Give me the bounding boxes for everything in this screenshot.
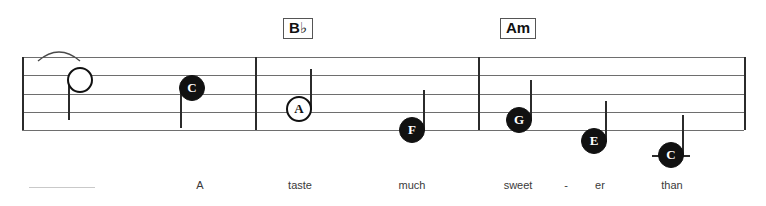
lyric-syllable: A [196,179,203,191]
staff-line-1 [22,57,744,58]
lyric-syllable: sweet [504,179,533,191]
barline-2 [255,57,257,130]
barline-3 [478,57,480,130]
slur-icon [36,46,82,62]
lyric-syllable: taste [288,179,312,191]
flat-icon: ♭ [300,19,307,36]
lyric-extender-line [29,187,95,188]
chord-symbol-Bb: B♭ [283,18,313,39]
lyric-syllable: than [661,179,682,191]
staff-line-3 [22,94,744,95]
lyric-syllable: much [399,179,426,191]
barline-end [744,57,746,130]
staff-line-5 [22,130,744,131]
chord-symbol-Am: Am [500,18,536,39]
notehead-G: G [506,107,532,133]
notehead-E: E [581,128,607,154]
chord-root: Am [506,19,530,36]
lyric-syllable: er [595,179,605,191]
notehead-F: F [399,117,425,143]
music-staff-sheet: B♭Am CAFGEC Atastemuchsweet-erthan [0,0,766,206]
barline-1 [22,57,24,130]
lyric-syllable: - [564,179,568,191]
chord-root: B [289,19,300,36]
notehead-C: C [179,75,205,101]
notehead-A: A [286,96,312,122]
notehead-blank [67,67,93,93]
notehead-C: C [658,142,684,168]
staff-line-4 [22,112,744,113]
staff-line-2 [22,75,744,76]
